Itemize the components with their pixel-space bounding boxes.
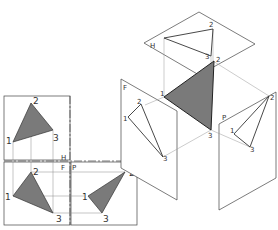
orthographic-views xyxy=(4,96,137,225)
top-label-3: 3 xyxy=(53,133,59,143)
front-label-1: 1 xyxy=(5,192,11,202)
side-view-triangle xyxy=(88,172,125,213)
f-label-2: 2 xyxy=(137,98,141,106)
plane-p xyxy=(219,92,276,210)
top-label-1: 1 xyxy=(6,136,12,146)
plane-label-p: P xyxy=(222,114,226,122)
pictorial-view xyxy=(121,12,276,210)
solid-label-2: 2 xyxy=(216,56,220,64)
front-view-triangle xyxy=(13,172,53,213)
p-label-3: 3 xyxy=(250,146,254,154)
side-label-3: 3 xyxy=(103,214,109,224)
top-label-2: 2 xyxy=(33,96,39,106)
h-label-3: 3 xyxy=(205,53,209,61)
fold-label-p: P xyxy=(72,164,76,172)
p-label-2: 2 xyxy=(270,94,274,102)
front-label-2: 2 xyxy=(33,167,39,177)
solid-label-3: 3 xyxy=(208,132,212,140)
f-label-1: 1 xyxy=(123,115,127,123)
h-label-2: 2 xyxy=(209,21,213,29)
side-label-1: 1 xyxy=(82,192,88,202)
plane-label-f: F xyxy=(123,84,127,92)
top-view-triangle xyxy=(13,103,53,142)
fold-label-h: H xyxy=(61,154,66,162)
f-label-3: 3 xyxy=(163,155,167,163)
plane-h xyxy=(144,12,255,75)
front-label-3: 3 xyxy=(56,214,62,224)
projection-diagram: 2 3 1 H F P 2 1 3 2 1 3 H F P xyxy=(0,0,278,230)
fold-label-f: F xyxy=(61,164,65,172)
p-label-1: 1 xyxy=(230,127,234,135)
solid-label-1: 1 xyxy=(160,90,164,98)
plane-label-h: H xyxy=(150,42,155,50)
